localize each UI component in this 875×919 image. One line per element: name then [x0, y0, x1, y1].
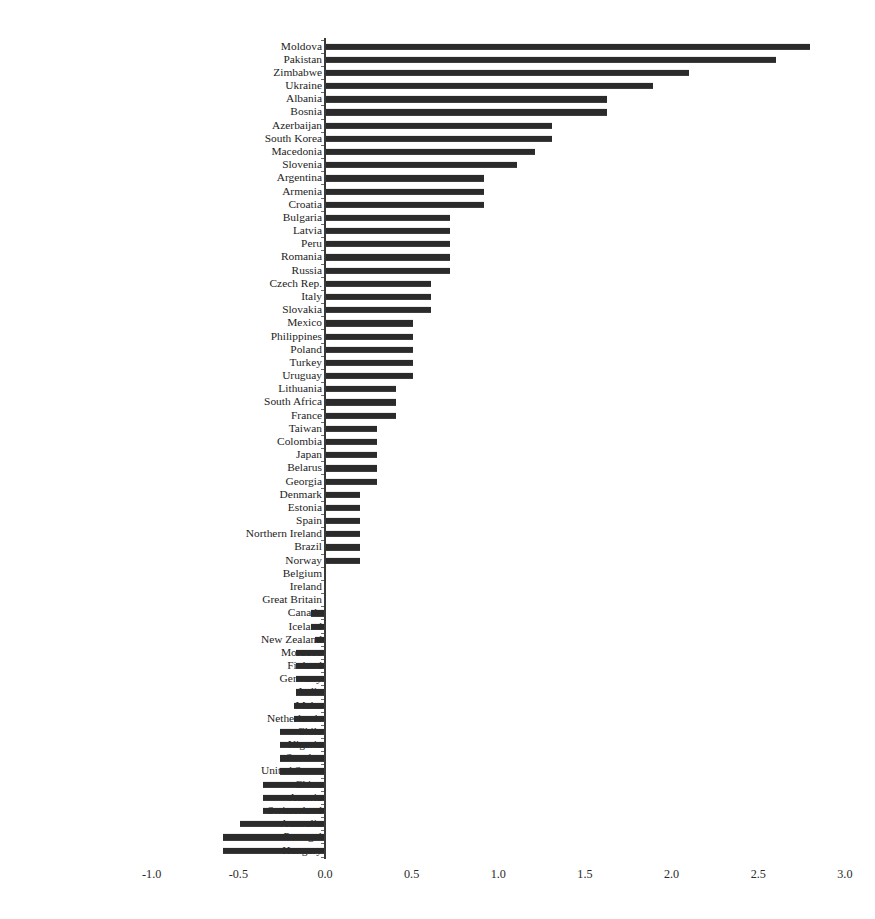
axis-tick-mark: [321, 725, 324, 726]
bar-chart: MoldovaPakistanZimbabweUkraineAlbaniaBos…: [0, 0, 875, 919]
category-label: Bulgaria: [283, 212, 322, 223]
axis-tick-mark: [321, 672, 324, 673]
bar: [325, 149, 535, 155]
bar-row: Denmark: [0, 488, 875, 501]
x-axis-tick-label: -0.5: [229, 868, 248, 880]
bar-row: Belarus: [0, 462, 875, 475]
bar: [325, 413, 396, 419]
x-axis-tick-label: 2.0: [664, 868, 679, 880]
category-label: Lithuania: [278, 384, 322, 395]
axis-tick-mark: [321, 132, 324, 133]
bar-row: Slovenia: [0, 159, 875, 172]
axis-tick-mark: [321, 778, 324, 779]
bar-row: Japan: [0, 449, 875, 462]
axis-tick-mark: [321, 382, 324, 383]
bar-row: Portugal: [0, 831, 875, 844]
bar-row: Mexico: [0, 317, 875, 330]
bar-row: Philippines: [0, 330, 875, 343]
category-label: Peru: [301, 239, 322, 250]
bar: [263, 795, 325, 801]
bar: [280, 755, 325, 761]
axis-tick-mark: [321, 184, 324, 185]
bar-row: Bulgaria: [0, 211, 875, 224]
axis-tick-mark: [321, 316, 324, 317]
axis-tick-mark: [321, 567, 324, 568]
category-label: Japan: [296, 449, 322, 460]
bar: [325, 465, 377, 471]
bar-row: Finland: [0, 659, 875, 672]
category-label: South Korea: [265, 133, 322, 144]
bar-row: Hungary: [0, 844, 875, 857]
axis-tick-mark: [321, 356, 324, 357]
category-label: Argentina: [277, 173, 322, 184]
axis-tick-mark: [321, 237, 324, 238]
axis-tick-mark: [321, 461, 324, 462]
bar: [325, 399, 396, 405]
bar: [311, 623, 325, 629]
axis-tick-mark: [321, 791, 324, 792]
bar: [325, 439, 377, 445]
bar-row: Nigeria: [0, 739, 875, 752]
category-label: Colombia: [277, 436, 322, 447]
zero-axis-line: [324, 38, 325, 859]
axis-tick-mark: [321, 369, 324, 370]
category-label: Mexico: [287, 318, 322, 329]
bar-row: Latvia: [0, 225, 875, 238]
bar-row: Macedonia: [0, 145, 875, 158]
category-label: Bosnia: [290, 107, 322, 118]
axis-tick-mark: [321, 303, 324, 304]
bar-row: Canada: [0, 607, 875, 620]
bar: [280, 768, 325, 774]
bar: [325, 268, 450, 274]
axis-tick-mark: [321, 250, 324, 251]
bar: [325, 294, 431, 300]
bar-row: Moldova: [0, 40, 875, 53]
bar: [223, 847, 325, 853]
bar: [296, 689, 325, 695]
category-label: Brazil: [294, 542, 322, 553]
axis-tick-mark: [321, 804, 324, 805]
bar: [325, 518, 360, 524]
category-label: Poland: [290, 344, 322, 355]
bar: [325, 44, 810, 50]
bar: [325, 360, 413, 366]
axis-tick-mark: [321, 554, 324, 555]
bar: [325, 386, 396, 392]
bar: [325, 57, 776, 63]
axis-tick-mark: [321, 277, 324, 278]
bar: [325, 175, 484, 181]
bar-row: South Korea: [0, 132, 875, 145]
bar-row: Uruguay: [0, 370, 875, 383]
bar: [325, 162, 517, 168]
axis-tick-mark: [321, 395, 324, 396]
category-label: Czech Rep.: [269, 278, 322, 289]
bar: [223, 834, 325, 840]
axis-tick-mark: [321, 712, 324, 713]
bar-row: Spain: [0, 514, 875, 527]
axis-tick-mark: [321, 409, 324, 410]
bar: [294, 716, 325, 722]
x-axis-tick-label: -1.0: [142, 868, 161, 880]
axis-tick-mark: [321, 857, 324, 858]
axis-tick-mark: [321, 738, 324, 739]
category-label: Macedonia: [271, 146, 322, 157]
axis-tick-mark: [321, 633, 324, 634]
x-axis-tick-label: 2.5: [751, 868, 766, 880]
category-label: Belgium: [283, 568, 322, 579]
bar-row: Romania: [0, 251, 875, 264]
axis-tick-mark: [321, 751, 324, 752]
bar-row: Italy: [0, 290, 875, 303]
bar-row: Lithuania: [0, 383, 875, 396]
category-label: Zimbabwe: [273, 67, 322, 78]
axis-tick-mark: [321, 619, 324, 620]
bar: [325, 109, 607, 115]
axis-tick-mark: [321, 211, 324, 212]
bar-row: China: [0, 778, 875, 791]
axis-tick-mark: [321, 593, 324, 594]
bar-row: Azerbaijan: [0, 119, 875, 132]
category-label: Philippines: [271, 331, 322, 342]
category-label: Italy: [301, 291, 322, 302]
category-label: Slovenia: [282, 160, 322, 171]
bar: [325, 123, 552, 129]
bar: [325, 96, 607, 102]
